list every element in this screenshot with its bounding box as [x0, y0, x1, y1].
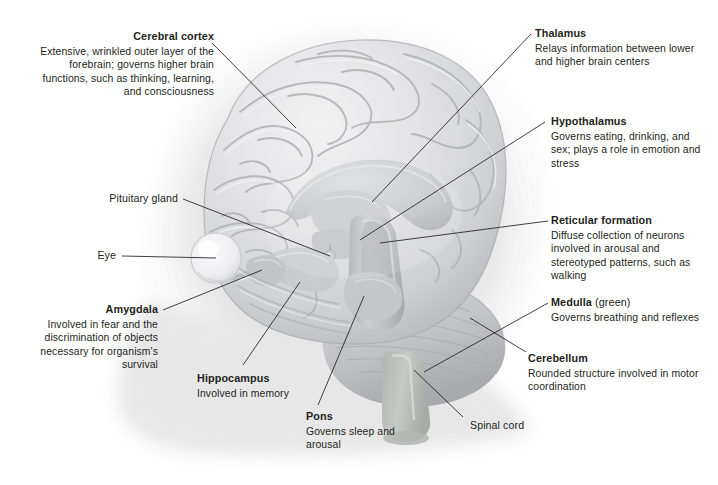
callout-thalamus: Thalamus Relays information between lowe…	[535, 27, 707, 69]
callout-body: Rounded structure involved in motor coor…	[528, 367, 703, 394]
callout-body: Extensive, wrinkled outer layer of the f…	[22, 45, 214, 99]
callout-pons: Pons Governs sleep and arousal	[306, 410, 424, 452]
callout-title: Pons	[306, 410, 424, 424]
callout-pituitary-gland: Pituitary gland	[62, 192, 178, 207]
callout-body: Diffuse collection of neurons involved i…	[551, 229, 713, 283]
callout-hippocampus: Hippocampus Involved in memory	[197, 372, 337, 400]
callout-title: Eye	[62, 249, 116, 263]
callout-title-text: Medulla	[551, 296, 592, 308]
callout-reticular-formation: Reticular formation Diffuse collection o…	[551, 214, 713, 283]
callout-body: Governs eating, drinking, and sex; plays…	[551, 130, 711, 171]
callout-title: Medulla (green)	[551, 296, 711, 310]
callout-body: Involved in memory	[197, 387, 337, 401]
callout-hypothalamus: Hypothalamus Governs eating, drinking, a…	[551, 115, 711, 170]
callout-title: Spinal cord	[470, 419, 560, 433]
callout-amygdala: Amygdala Involved in fear and the discri…	[10, 303, 158, 372]
callout-title: Cerebellum	[528, 352, 703, 366]
callout-body: Governs breathing and reflexes	[551, 311, 711, 325]
eye-structure	[191, 233, 241, 283]
callout-title: Thalamus	[535, 27, 707, 41]
callout-body: Governs sleep and arousal	[306, 425, 424, 452]
callout-cerebellum: Cerebellum Rounded structure involved in…	[528, 352, 703, 394]
brain-diagram-figure: Cerebral cortex Extensive, wrinkled oute…	[0, 0, 718, 485]
callout-spinal-cord: Spinal cord	[470, 419, 560, 434]
callout-title: Amygdala	[10, 303, 158, 317]
callout-title: Pituitary gland	[62, 192, 178, 206]
callout-title: Reticular formation	[551, 214, 713, 228]
callout-title: Hypothalamus	[551, 115, 711, 129]
callout-body: Involved in fear and the discrimination …	[10, 318, 158, 372]
callout-title: Cerebral cortex	[22, 30, 214, 44]
callout-cerebral-cortex: Cerebral cortex Extensive, wrinkled oute…	[22, 30, 214, 99]
callout-eye: Eye	[62, 249, 116, 264]
callout-body: Relays information between lower and hig…	[535, 42, 707, 69]
callout-medulla: Medulla (green) Governs breathing and re…	[551, 296, 711, 324]
callout-title-sub: (green)	[592, 296, 631, 308]
callout-title: Hippocampus	[197, 372, 337, 386]
